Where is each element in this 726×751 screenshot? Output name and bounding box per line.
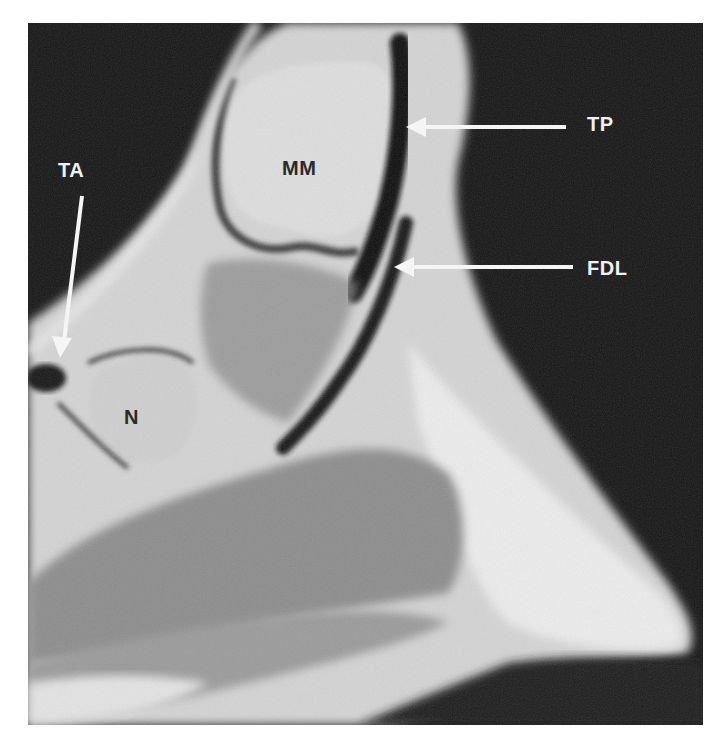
- label-tp: TP: [587, 113, 614, 136]
- label-mm: MM: [282, 157, 316, 180]
- label-n: N: [124, 406, 139, 429]
- label-ta: TA: [58, 159, 84, 182]
- label-fdl: FDL: [587, 257, 627, 280]
